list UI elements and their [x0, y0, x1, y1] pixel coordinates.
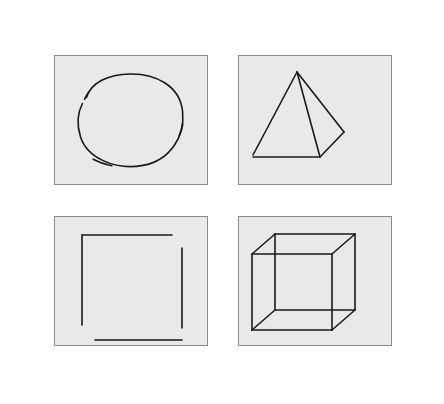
- pyramid-edge-apex-front-right: [297, 72, 320, 157]
- figure-root: [0, 0, 444, 404]
- cube-drawing: [239, 217, 391, 345]
- shape-panel-grid: [54, 55, 392, 346]
- pyramid-edge-apex-front-left: [253, 72, 297, 155]
- cube-depth-edge-top-right: [332, 234, 355, 254]
- pyramid-base-right-edge: [320, 132, 344, 157]
- circle-overlap-tail-right: [179, 124, 182, 136]
- panel-cube[interactable]: [238, 216, 392, 346]
- circle-main-arc: [78, 74, 183, 167]
- pyramid-drawing: [239, 56, 391, 184]
- panel-circle[interactable]: [54, 55, 208, 185]
- panel-square[interactable]: [54, 216, 208, 346]
- square-drawing: [55, 217, 207, 345]
- cube-depth-edge-bottom-left: [252, 310, 275, 330]
- circle-drawing: [55, 56, 207, 184]
- pyramid-edge-apex-right: [297, 72, 344, 132]
- cube-depth-edge-bottom-right: [332, 310, 355, 330]
- cube-depth-edge-top-left: [252, 234, 275, 254]
- panel-pyramid[interactable]: [238, 55, 392, 185]
